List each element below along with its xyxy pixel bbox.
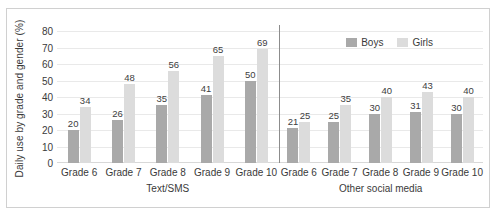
panel-title-2: Other social media [279, 183, 483, 194]
bar-group: 2535 [328, 31, 351, 163]
bar-value-label: 40 [381, 85, 392, 96]
bar-value-label: 40 [463, 85, 474, 96]
legend-label-girls: Girls [412, 37, 433, 48]
bar-value-label: 48 [124, 72, 135, 83]
category-panel-2: Grade 6Grade 7Grade 8Grade 9Grade 10 [279, 165, 483, 179]
bar-boys[interactable]: 20 [68, 31, 79, 163]
bar-group: 4165 [201, 31, 224, 163]
bar-value-label: 25 [329, 110, 340, 121]
chart-container: Daily use by grade and gender (%) 807060… [6, 8, 490, 208]
bar-value-label: 50 [245, 69, 256, 80]
bar-girls[interactable]: 69 [257, 31, 268, 163]
bar-group: 2125 [287, 31, 310, 163]
plot-area: 2034264835564165506921252535304031433040 [57, 31, 483, 163]
bar-boys[interactable]: 25 [328, 31, 339, 163]
y-axis-tick-80: 80 [42, 26, 53, 37]
bar-value-label: 69 [257, 37, 268, 48]
category-label: Grade 6 [279, 167, 320, 178]
bar-girls[interactable]: 65 [213, 31, 224, 163]
y-axis-tick-labels: 80706050403020100 [29, 31, 55, 163]
bar-fill [451, 114, 462, 164]
bar-fill [245, 81, 256, 164]
bar-girls[interactable]: 48 [124, 31, 135, 163]
panel-divider [279, 25, 280, 163]
bar-fill [124, 84, 135, 163]
bar-boys[interactable]: 21 [287, 31, 298, 163]
bar-panel-1: 20342648355641655069 [57, 31, 279, 163]
bar-value-label: 21 [288, 116, 299, 127]
bar-fill [328, 122, 339, 163]
bar-girls[interactable]: 35 [340, 31, 351, 163]
bar-girls[interactable]: 40 [463, 31, 474, 163]
legend-item-girls[interactable]: Girls [397, 37, 433, 48]
bar-fill [381, 97, 392, 163]
category-label: Grade 7 [101, 167, 145, 178]
legend-swatch-boys [346, 38, 357, 47]
bar-fill [463, 97, 474, 163]
bar-value-label: 35 [156, 93, 167, 104]
bar-group: 3143 [410, 31, 433, 163]
bar-group: 2648 [112, 31, 135, 163]
bar-fill [410, 112, 421, 163]
bar-fill [168, 71, 179, 163]
bar-value-label: 65 [213, 44, 224, 55]
bar-fill [156, 105, 167, 163]
bar-value-label: 43 [422, 80, 433, 91]
y-axis-tick-30: 30 [42, 108, 53, 119]
bar-girls[interactable]: 43 [422, 31, 433, 163]
y-axis-tick-60: 60 [42, 59, 53, 70]
bar-value-label: 25 [300, 110, 311, 121]
panel-title-1: Text/SMS [57, 183, 279, 194]
bar-group: 3556 [156, 31, 179, 163]
category-label: Grade 9 [401, 167, 442, 178]
bar-girls[interactable]: 56 [168, 31, 179, 163]
bar-boys[interactable]: 35 [156, 31, 167, 163]
y-axis-title: Daily use by grade and gender (%) [15, 19, 26, 177]
bar-value-label: 31 [410, 100, 421, 111]
bar-boys[interactable]: 41 [201, 31, 212, 163]
category-label: Grade 8 [146, 167, 190, 178]
bar-group: 2034 [68, 31, 91, 163]
bar-boys[interactable]: 31 [410, 31, 421, 163]
bar-girls[interactable]: 25 [299, 31, 310, 163]
bar-fill [68, 130, 79, 163]
category-label: Grade 10 [234, 167, 278, 178]
category-label: Grade 10 [441, 167, 483, 178]
legend-item-boys[interactable]: Boys [346, 37, 383, 48]
bar-boys[interactable]: 50 [245, 31, 256, 163]
bar-boys[interactable]: 26 [112, 31, 123, 163]
bar-value-label: 56 [168, 59, 179, 70]
y-axis-tick-50: 50 [42, 75, 53, 86]
bar-fill [287, 128, 298, 163]
bar-group: 3040 [451, 31, 474, 163]
bar-boys[interactable]: 30 [451, 31, 462, 163]
bar-value-label: 30 [451, 102, 462, 113]
bar-value-label: 41 [201, 83, 212, 94]
bar-boys[interactable]: 30 [369, 31, 380, 163]
bar-girls[interactable]: 40 [381, 31, 392, 163]
y-axis-tick-40: 40 [42, 92, 53, 103]
y-axis-tick-70: 70 [42, 42, 53, 53]
bar-value-label: 34 [80, 95, 91, 106]
bar-fill [422, 92, 433, 163]
bar-group: 5069 [245, 31, 268, 163]
bar-girls[interactable]: 34 [80, 31, 91, 163]
category-label: Grade 6 [57, 167, 101, 178]
y-axis-tick-0: 0 [47, 158, 53, 169]
legend-swatch-girls [397, 38, 408, 47]
bar-fill [340, 105, 351, 163]
bar-fill [213, 56, 224, 163]
category-label: Grade 7 [319, 167, 360, 178]
bar-value-label: 20 [68, 118, 79, 129]
bar-value-label: 26 [112, 108, 123, 119]
bar-group: 3040 [369, 31, 392, 163]
bar-fill [299, 122, 310, 163]
bar-fill [369, 114, 380, 164]
bar-value-label: 30 [369, 102, 380, 113]
y-axis-tick-10: 10 [42, 141, 53, 152]
category-label: Grade 9 [190, 167, 234, 178]
chart-legend: BoysGirls [346, 35, 433, 49]
bar-fill [257, 49, 268, 163]
bar-fill [80, 107, 91, 163]
bar-value-label: 35 [341, 93, 352, 104]
